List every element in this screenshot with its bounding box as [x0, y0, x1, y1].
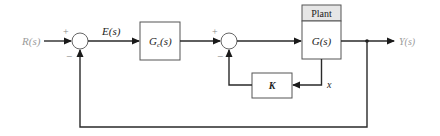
summing-junction-1	[72, 33, 88, 49]
feedback-gain-label: K	[268, 80, 277, 91]
plant-header-label: Plant	[311, 8, 332, 19]
sum2-minus-sign: −	[217, 50, 223, 62]
controller-label: Gc(s)	[149, 35, 172, 49]
output-label: Y(s)	[399, 36, 416, 48]
error-label: E(s)	[101, 25, 121, 38]
sum2-plus-sign: +	[212, 26, 218, 37]
sum1-plus-sign: +	[63, 26, 69, 37]
state-feedback-line	[293, 59, 322, 85]
block-diagram: R(s) + − E(s) Gc(s) + − Plant G(s) Y(s) …	[0, 0, 440, 136]
state-label: x	[326, 79, 332, 90]
summing-junction-2	[221, 33, 237, 49]
inner-feedback-line	[229, 50, 252, 85]
sum1-minus-sign: −	[66, 50, 72, 62]
plant-label: G(s)	[312, 35, 332, 48]
input-label: R(s)	[21, 35, 41, 48]
